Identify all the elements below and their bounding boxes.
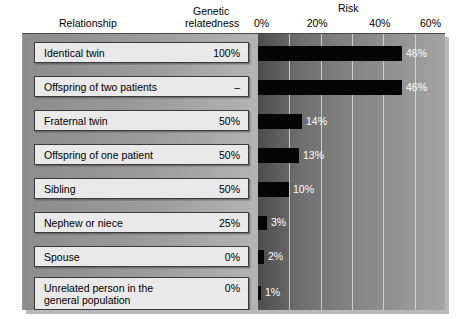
risk-bar-value: 3% — [271, 217, 286, 228]
relationship-label: Offspring of two patients — [44, 81, 234, 93]
column-header-relationship: Relationship — [59, 18, 117, 30]
risk-bar — [258, 182, 289, 197]
genetic-relatedness-value: 0% — [225, 282, 240, 294]
gridline-30 — [352, 34, 353, 310]
column-header-risk: Risk — [338, 3, 358, 15]
risk-bar — [258, 250, 264, 264]
relationship-label: Nephew or niece — [44, 217, 219, 229]
genetic-relatedness-value: 100% — [213, 47, 240, 59]
genetic-relatedness-value: 50% — [219, 149, 240, 161]
x-tick-60: 60% — [420, 18, 441, 30]
gridline-10 — [289, 34, 290, 310]
relationship-label: Fraternal twin — [44, 115, 219, 127]
x-tick-20: 20% — [307, 18, 328, 30]
risk-bar — [258, 46, 402, 61]
bars-panel: 46%46%14%13%10%3%2%1% — [258, 34, 445, 310]
x-tick-40: 40% — [369, 18, 390, 30]
risk-bar-value: 1% — [265, 287, 280, 298]
risk-bar — [258, 216, 267, 230]
risk-bar-value: 14% — [306, 116, 327, 127]
x-tick-0: 0% — [254, 18, 269, 30]
genetic-relatedness-value: 50% — [219, 115, 240, 127]
frame-shadow-bottom — [26, 310, 449, 314]
relationship-row: Nephew or niece25% — [34, 212, 249, 233]
relationship-row: Sibling50% — [34, 178, 249, 199]
relationship-label: Offspring of one patient — [44, 149, 219, 161]
column-header-genetic-line1: Genetic — [193, 6, 229, 18]
risk-bar-value: 2% — [268, 251, 283, 262]
risk-bar-value: 13% — [303, 150, 324, 161]
relationship-label: Spouse — [44, 251, 225, 263]
risk-bar — [258, 80, 402, 95]
gridline-50 — [415, 34, 416, 310]
relationship-label: Unrelated person in thegeneral populatio… — [44, 282, 225, 306]
frame-shadow-right — [445, 37, 449, 314]
risk-bar — [258, 286, 261, 300]
risk-bar-value: 46% — [406, 48, 427, 59]
risk-bar-value: 10% — [293, 184, 314, 195]
risk-bar — [258, 148, 299, 163]
chart-header: Relationship Genetic relatedness Risk 0%… — [0, 0, 460, 33]
relationship-row: Fraternal twin50% — [34, 110, 249, 131]
genetic-relatedness-value: 50% — [219, 183, 240, 195]
relationship-row: Spouse0% — [34, 246, 249, 267]
risk-bar — [258, 114, 302, 129]
column-header-genetic-line2: relatedness — [185, 18, 239, 30]
relationship-row: Offspring of two patients– — [34, 76, 249, 97]
gridline-20 — [321, 34, 322, 310]
genetic-relatedness-value: – — [234, 81, 240, 93]
relationship-row: Unrelated person in thegeneral populatio… — [34, 277, 249, 310]
risk-bar-value: 46% — [406, 82, 427, 93]
plot-frame: 46%46%14%13%10%3%2%1% Identical twin100%… — [22, 33, 445, 310]
genetic-relatedness-value: 0% — [225, 251, 240, 263]
gridline-40 — [383, 34, 384, 310]
relationship-row: Identical twin100% — [34, 42, 249, 63]
genetic-relatedness-value: 25% — [219, 217, 240, 229]
relationship-label: Identical twin — [44, 47, 213, 59]
relationship-label: Sibling — [44, 183, 219, 195]
relationship-row: Offspring of one patient50% — [34, 144, 249, 165]
